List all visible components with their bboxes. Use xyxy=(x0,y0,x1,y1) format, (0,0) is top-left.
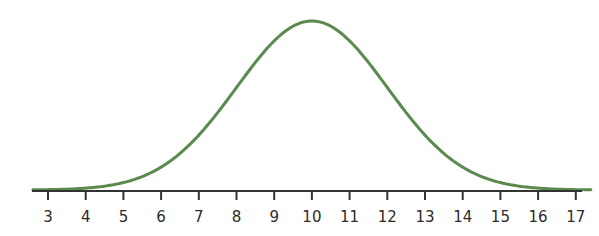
x-tick-label: 9 xyxy=(269,208,279,226)
x-tick-label: 15 xyxy=(491,208,510,226)
normal-distribution-curve xyxy=(33,21,591,190)
x-tick-label: 12 xyxy=(378,208,397,226)
x-tick-label: 11 xyxy=(340,208,359,226)
x-axis-ticks xyxy=(48,191,576,200)
x-tick-label: 13 xyxy=(415,208,434,226)
x-tick-label: 14 xyxy=(453,208,472,226)
x-tick-label: 17 xyxy=(566,208,585,226)
x-tick-label: 6 xyxy=(156,208,166,226)
x-tick-label: 16 xyxy=(529,208,548,226)
x-tick-label: 8 xyxy=(232,208,242,226)
x-tick-label: 3 xyxy=(43,208,53,226)
x-tick-label: 5 xyxy=(119,208,129,226)
x-tick-label: 4 xyxy=(81,208,91,226)
x-tick-label: 10 xyxy=(302,208,321,226)
x-tick-label: 7 xyxy=(194,208,204,226)
bell-curve-chart: 34567891011121314151617 xyxy=(0,0,599,236)
x-axis-tick-labels: 34567891011121314151617 xyxy=(43,208,585,226)
